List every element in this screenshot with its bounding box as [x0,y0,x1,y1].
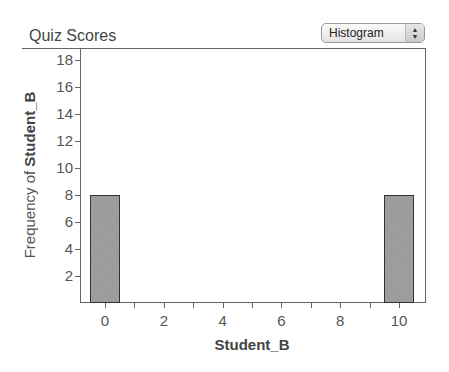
y-tick-label: 4 [43,240,73,257]
x-tick [340,303,341,308]
y-tick-label: 10 [43,159,73,176]
x-tick-label: 10 [384,312,414,329]
y-tick-label: 8 [43,186,73,203]
x-tick [252,303,253,308]
x-tick [223,303,224,308]
x-tick-label: 6 [266,312,296,329]
x-tick-label: 4 [208,312,238,329]
y-tick [75,222,80,223]
x-tick [281,303,282,308]
x-tick-label: 0 [90,312,120,329]
plot-type-selector[interactable]: Histogram ▲▼ [321,23,425,43]
y-tick-label: 14 [43,105,73,122]
y-tick [75,168,80,169]
x-axis-title: Student_B [0,336,449,353]
x-tick [105,303,106,308]
x-tick [370,303,371,308]
histogram-bar[interactable] [384,195,413,303]
x-tick [311,303,312,308]
y-tick [75,195,80,196]
y-tick [75,249,80,250]
y-tick [75,141,80,142]
y-tick [75,60,80,61]
up-down-arrows-icon: ▲▼ [405,24,424,42]
y-tick-label: 6 [43,213,73,230]
x-tick [399,303,400,308]
x-tick [193,303,194,308]
y-tick-label: 12 [43,132,73,149]
y-tick [75,114,80,115]
histogram-bar[interactable] [90,195,119,303]
y-tick-label: 16 [43,78,73,95]
x-tick [134,303,135,308]
x-tick [164,303,165,308]
chart-title: Quiz Scores [29,27,116,45]
x-tick-label: 8 [325,312,355,329]
y-tick [75,87,80,88]
plot-type-selected: Histogram [322,26,405,40]
y-tick [75,276,80,277]
y-tick-label: 18 [43,51,73,68]
y-axis-title: Frequency of Student_B [21,92,38,259]
y-tick-label: 2 [43,267,73,284]
plot-area [80,48,426,303]
x-tick-label: 2 [149,312,179,329]
